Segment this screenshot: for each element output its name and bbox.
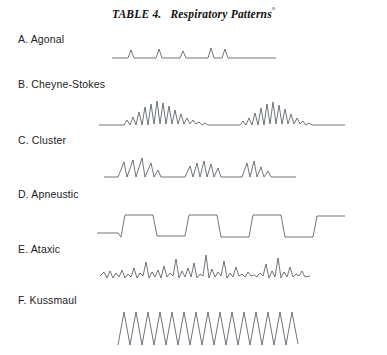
- figure-title-table-number: TABLE 4.: [112, 8, 162, 20]
- pattern-label-cluster: C. Cluster: [18, 134, 66, 146]
- waveform-cluster: [104, 158, 296, 177]
- waveform-agonal: [112, 48, 276, 58]
- figure-title-footnote-marker: °: [272, 6, 275, 15]
- pattern-label-cheyne-stokes: B. Cheyne-Stokes: [18, 78, 105, 90]
- pattern-label-apneustic: D. Apneustic: [18, 188, 79, 200]
- pattern-label-ataxic: E. Ataxic: [18, 243, 60, 255]
- waveform-kussmaul: [118, 312, 298, 345]
- waveform-apneustic: [97, 215, 345, 237]
- figure-title: TABLE 4.Respiratory Patterns°: [0, 6, 387, 20]
- pattern-label-kussmaul: F. Kussmaul: [18, 294, 77, 306]
- waveform-cheyne-stokes: [99, 101, 345, 125]
- waveform-ataxic: [100, 255, 310, 278]
- respiratory-patterns-figure: TABLE 4.Respiratory Patterns° A. Agonal …: [0, 0, 387, 355]
- pattern-label-agonal: A. Agonal: [18, 33, 64, 45]
- figure-title-text: Respiratory Patterns: [170, 8, 271, 20]
